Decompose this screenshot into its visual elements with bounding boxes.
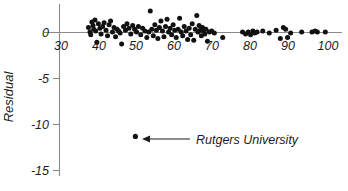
data-point	[191, 38, 196, 43]
data-point	[255, 30, 260, 35]
data-point	[278, 36, 283, 41]
data-point	[288, 30, 293, 35]
data-point	[152, 22, 157, 27]
data-point	[93, 29, 98, 34]
data-point	[158, 19, 163, 24]
data-point	[212, 30, 217, 35]
y-tick-label-minus15: -15	[31, 164, 49, 178]
data-point	[155, 36, 160, 41]
x-tick-label-90: 90	[281, 39, 295, 53]
data-point	[113, 34, 118, 39]
annotation-arrow-head-icon	[142, 136, 150, 143]
data-point	[185, 37, 190, 42]
data-point	[99, 31, 104, 36]
residual-scatter-figure: 0 -5 -10 -15 30 40 50 60 70 80 90 100 Re…	[0, 0, 348, 191]
x-tick-label-30: 30	[54, 39, 68, 53]
data-point	[118, 30, 123, 35]
data-point	[94, 40, 99, 45]
data-point	[102, 20, 107, 25]
data-point	[323, 30, 328, 35]
data-point	[108, 19, 113, 24]
data-point	[163, 24, 168, 29]
data-point	[285, 35, 290, 40]
data-point	[180, 33, 185, 38]
data-point	[187, 26, 192, 31]
data-point	[119, 42, 124, 47]
data-point	[134, 30, 139, 35]
data-point	[105, 33, 110, 38]
data-point	[96, 21, 101, 26]
data-point	[88, 32, 93, 37]
data-point	[128, 31, 133, 36]
data-point	[202, 31, 207, 36]
data-point	[182, 24, 187, 29]
data-point	[149, 27, 154, 32]
data-point	[92, 18, 97, 23]
scatter-plot-svg: 0 -5 -10 -15 30 40 50 60 70 80 90 100 Re…	[0, 0, 348, 191]
y-tick-label-minus5: -5	[38, 72, 49, 86]
data-point	[151, 33, 156, 38]
data-point	[86, 25, 91, 30]
data-point	[188, 32, 193, 37]
data-points-group	[86, 8, 328, 139]
x-tick-label-60: 60	[167, 39, 181, 53]
data-point	[194, 13, 199, 18]
y-tick-label-0: 0	[42, 26, 49, 40]
data-point	[174, 35, 179, 40]
data-point	[171, 22, 176, 27]
data-point	[124, 21, 129, 26]
x-tick-label-80: 80	[243, 39, 257, 53]
data-point	[315, 30, 320, 35]
outlier-data-point	[133, 134, 138, 139]
y-axis-ticks	[53, 33, 60, 171]
data-point	[104, 28, 109, 33]
data-point	[144, 35, 149, 40]
data-point	[148, 8, 153, 13]
y-axis-title: Residual	[1, 71, 16, 123]
x-tick-label-100: 100	[318, 39, 339, 53]
data-point	[169, 32, 174, 37]
y-tick-label-minus10: -10	[31, 118, 49, 132]
data-point	[138, 32, 143, 37]
data-point	[220, 35, 225, 40]
data-point	[267, 30, 272, 35]
annotation-rutgers: Rutgers University	[142, 133, 299, 147]
data-point	[177, 16, 182, 21]
data-point	[160, 29, 165, 34]
data-point	[161, 34, 166, 39]
data-point	[190, 21, 195, 26]
data-point	[110, 30, 115, 35]
data-point	[299, 30, 304, 35]
data-point	[260, 29, 265, 34]
x-tick-label-50: 50	[129, 39, 143, 53]
data-point	[283, 27, 288, 32]
data-point	[165, 17, 170, 22]
data-point	[205, 39, 210, 44]
data-point	[274, 28, 279, 33]
annotation-label-rutgers: Rutgers University	[196, 133, 299, 147]
